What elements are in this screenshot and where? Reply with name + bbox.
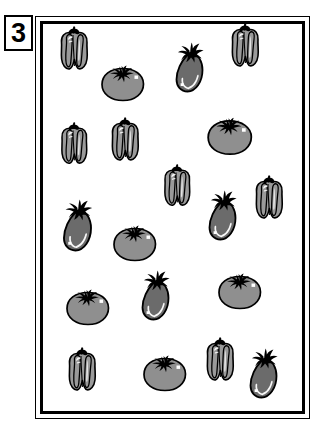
vegetable-canvas	[43, 24, 302, 411]
exercise-number-badge: 3	[4, 15, 33, 51]
tomato-icon	[216, 271, 264, 311]
tomato-icon	[141, 353, 189, 393]
tomato-icon	[99, 63, 147, 103]
pepper-icon	[56, 26, 92, 74]
pepper-icon	[107, 117, 143, 165]
eggplant-icon	[139, 267, 173, 323]
pepper-icon	[202, 337, 238, 385]
pepper-icon	[227, 24, 263, 71]
eggplant-icon	[60, 196, 95, 254]
exercise-number-text: 3	[11, 20, 26, 47]
pepper-icon	[57, 122, 92, 168]
worksheet-page: 3	[0, 0, 313, 427]
pepper-icon	[251, 175, 287, 223]
picture-frame-outer	[35, 16, 310, 419]
eggplant-icon	[206, 187, 240, 243]
picture-frame-inner	[40, 21, 305, 414]
pepper-icon	[160, 164, 195, 210]
eggplant-icon	[247, 345, 281, 401]
tomato-icon	[64, 287, 112, 327]
tomato-icon	[205, 115, 255, 157]
pepper-icon	[64, 347, 100, 395]
eggplant-icon	[173, 39, 207, 95]
tomato-icon	[111, 223, 159, 263]
